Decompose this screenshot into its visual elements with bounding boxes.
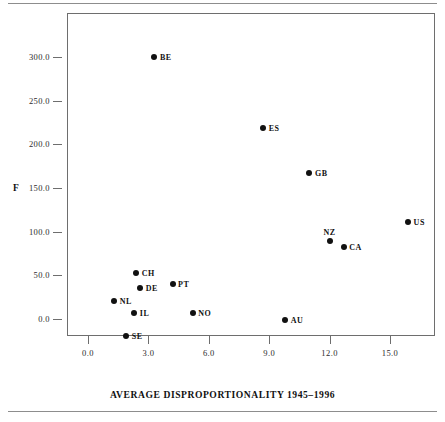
top-divider-rule (8, 3, 437, 4)
y-axis-tick-label: 150.0 (29, 183, 50, 193)
y-axis-tick (53, 144, 62, 145)
data-point-marker (341, 244, 347, 250)
data-point-label: CH (142, 268, 155, 277)
scatter-plot-figure: 0.050.0100.0150.0200.0250.0300.0F AVERAG… (0, 0, 445, 422)
data-point-marker (405, 219, 411, 225)
data-point-label: AU (291, 315, 304, 324)
data-point-label: NL (120, 296, 132, 305)
y-axis-tick (53, 101, 62, 102)
y-axis: 0.050.0100.0150.0200.0250.0300.0F (0, 0, 70, 422)
data-point-marker (327, 238, 333, 244)
y-axis-tick (53, 232, 62, 233)
data-point-label: PT (178, 280, 189, 289)
y-axis-tick-label: 250.0 (29, 96, 50, 106)
plot-area-frame (67, 13, 435, 336)
y-axis-tick (53, 57, 62, 58)
x-axis-tick (209, 336, 210, 344)
y-axis-tick-label: 100.0 (29, 227, 50, 237)
data-point-marker (131, 310, 137, 316)
data-point-label: DE (146, 283, 158, 292)
x-axis-tick (390, 336, 391, 344)
data-point-marker (190, 310, 196, 316)
data-point-label: IL (140, 308, 149, 317)
data-point-marker (151, 54, 157, 60)
data-point-marker (282, 317, 288, 323)
data-point-marker (123, 333, 129, 339)
data-point-label: BE (160, 53, 172, 62)
x-axis-tick (148, 336, 149, 344)
data-point-label: US (414, 218, 425, 227)
y-axis-tick (53, 275, 62, 276)
y-axis-tick (53, 188, 62, 189)
x-axis-tick-label: 15.0 (382, 348, 398, 358)
bottom-divider-rule (8, 411, 437, 412)
data-point-label: NO (198, 308, 211, 317)
data-point-label: ES (269, 123, 280, 132)
y-axis-tick-label: 0.0 (38, 314, 50, 324)
data-point-label: SE (132, 331, 143, 340)
x-axis-tick (330, 336, 331, 344)
x-axis-tick-label: 0.0 (82, 348, 94, 358)
data-point-label: CA (349, 243, 362, 252)
data-point-marker (111, 298, 117, 304)
x-axis-tick-label: 6.0 (203, 348, 215, 358)
data-point-marker (306, 170, 312, 176)
y-axis-title: F (13, 183, 19, 193)
x-axis-tick (88, 336, 89, 344)
x-axis-title: AVERAGE DISPROPORTIONALITY 1945–1996 (0, 389, 445, 400)
data-point-marker (133, 270, 139, 276)
x-axis-tick-label: 3.0 (142, 348, 154, 358)
y-axis-tick-label: 300.0 (29, 52, 50, 62)
x-axis-tick-label: 9.0 (263, 348, 275, 358)
data-point-label: NZ (324, 228, 336, 237)
data-point-label: GB (315, 169, 328, 178)
x-axis-tick-label: 12.0 (321, 348, 337, 358)
y-axis-tick-label: 200.0 (29, 139, 50, 149)
data-point-marker (170, 281, 176, 287)
data-point-marker (137, 285, 143, 291)
y-axis-tick-label: 50.0 (34, 270, 50, 280)
x-axis-tick (269, 336, 270, 344)
data-point-marker (260, 125, 266, 131)
y-axis-tick (53, 319, 62, 320)
